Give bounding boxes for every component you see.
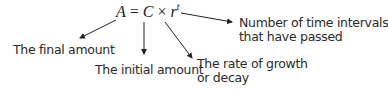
arrow-to-final-amount [80, 20, 116, 38]
label-rate-line1: The rate of growth [197, 57, 308, 71]
formula-exponent: t [177, 1, 180, 12]
label-intervals-line1: Number of time intervals [239, 16, 388, 30]
label-final-amount: The final amount [13, 43, 115, 57]
label-intervals-line2: that have passed [239, 30, 388, 44]
formula-equals: = [130, 3, 139, 20]
exponential-formula: A = C × rt [116, 3, 180, 21]
formula-final-amount: A [116, 3, 126, 20]
label-intervals: Number of time intervals that have passe… [239, 16, 388, 44]
formula-initial-amount: C [143, 3, 154, 20]
arrow-to-rate [165, 22, 192, 58]
formula-times: × [157, 3, 166, 20]
label-rate: The rate of growth or decay [197, 57, 308, 85]
arrow-to-intervals [181, 13, 232, 22]
label-rate-line2: or decay [197, 71, 308, 85]
label-initial-amount: The initial amount [95, 63, 203, 77]
